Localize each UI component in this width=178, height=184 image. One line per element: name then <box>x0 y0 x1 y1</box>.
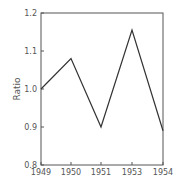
plot-frame <box>41 13 163 165</box>
x-tick-label: 1950 <box>61 168 81 177</box>
x-tick-label: 1949 <box>31 168 51 177</box>
y-tick-label: 1.2 <box>24 9 37 18</box>
x-axis: 19491950195119531954 <box>31 162 173 177</box>
y-tick-label: 1.1 <box>24 47 37 56</box>
x-tick-label: 1954 <box>153 168 173 177</box>
y-axis-label: Ratio <box>12 77 22 101</box>
x-tick-label: 1951 <box>91 168 111 177</box>
x-tick-label: 1953 <box>122 168 142 177</box>
ratio-series-line <box>41 30 163 131</box>
y-tick-label: 0.9 <box>24 123 37 132</box>
y-tick-label: 1.0 <box>24 85 37 94</box>
line-chart: 0.80.91.01.11.2 19491950195119531954 Rat… <box>0 0 178 184</box>
